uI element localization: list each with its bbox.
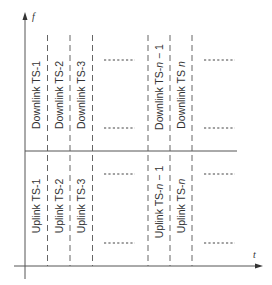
uplink-slot-label: Uplink TS-2	[53, 179, 65, 234]
downlink-slot-label: Downlink TS n	[175, 61, 187, 129]
uplink-slot-label: Uplink TS-n − 1	[153, 166, 165, 239]
time-axis-label: t	[253, 249, 256, 260]
downlink-slot-label: Downlink TS-3	[75, 61, 87, 129]
time-axis: t	[14, 249, 263, 269]
tdd-timeslot-diagram: f t Downlink TS-1 Downlink TS-2 Downlink…	[0, 0, 272, 285]
downlink-labels: Downlink TS-1 Downlink TS-2 Downlink TS-…	[30, 44, 187, 130]
uplink-slot-label: Uplink TS-3	[75, 179, 87, 234]
uplink-slot-label: Uplink TS-1	[30, 179, 42, 234]
uplink-slot-label: Uplink TS-n	[175, 179, 187, 234]
arrow-up-icon	[23, 12, 28, 20]
frequency-axis-label: f	[32, 11, 36, 22]
downlink-slot-label: Downlink TS-n − 1	[153, 44, 165, 130]
uplink-labels: Uplink TS-1 Uplink TS-2 Uplink TS-3 Upli…	[30, 166, 187, 239]
downlink-slot-label: Downlink TS-1	[30, 61, 42, 129]
frequency-axis: f	[23, 11, 37, 279]
downlink-slot-label: Downlink TS-2	[53, 61, 65, 129]
arrow-right-icon	[255, 264, 263, 269]
